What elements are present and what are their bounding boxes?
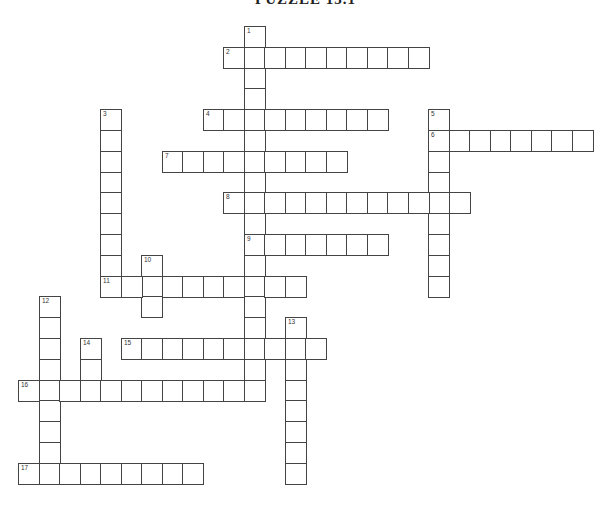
crossword-cell[interactable]: [490, 130, 512, 152]
crossword-cell[interactable]: [39, 317, 61, 339]
crossword-cell[interactable]: [162, 338, 184, 360]
crossword-cell[interactable]: [244, 317, 266, 339]
crossword-cell[interactable]: 1: [244, 26, 266, 48]
crossword-cell[interactable]: [100, 130, 122, 152]
crossword-cell[interactable]: [285, 338, 307, 360]
crossword-cell[interactable]: [39, 421, 61, 443]
crossword-cell[interactable]: [121, 380, 143, 402]
crossword-cell[interactable]: [531, 130, 553, 152]
crossword-cell[interactable]: [285, 359, 307, 381]
crossword-cell[interactable]: [367, 234, 389, 256]
crossword-cell[interactable]: [182, 338, 204, 360]
crossword-cell[interactable]: [572, 130, 594, 152]
crossword-cell[interactable]: 7: [162, 151, 184, 173]
crossword-cell[interactable]: [285, 109, 307, 131]
crossword-cell[interactable]: [428, 234, 450, 256]
crossword-cell[interactable]: [244, 338, 266, 360]
crossword-cell[interactable]: [285, 192, 307, 214]
crossword-cell[interactable]: [367, 47, 389, 69]
crossword-cell[interactable]: [59, 380, 81, 402]
crossword-cell[interactable]: [285, 380, 307, 402]
crossword-cell[interactable]: [244, 88, 266, 110]
crossword-cell[interactable]: [326, 192, 348, 214]
crossword-cell[interactable]: [408, 192, 430, 214]
crossword-cell[interactable]: [203, 276, 225, 298]
crossword-cell[interactable]: [100, 234, 122, 256]
crossword-cell[interactable]: [346, 234, 368, 256]
crossword-cell[interactable]: 12: [39, 296, 61, 318]
crossword-cell[interactable]: [244, 68, 266, 90]
crossword-cell[interactable]: [469, 130, 491, 152]
crossword-cell[interactable]: [39, 463, 61, 485]
crossword-cell[interactable]: [39, 359, 61, 381]
crossword-cell[interactable]: 14: [80, 338, 102, 360]
crossword-cell[interactable]: [346, 109, 368, 131]
crossword-cell[interactable]: [285, 276, 307, 298]
crossword-cell[interactable]: 13: [285, 317, 307, 339]
crossword-cell[interactable]: [244, 255, 266, 277]
crossword-cell[interactable]: [346, 47, 368, 69]
crossword-cell[interactable]: [39, 338, 61, 360]
crossword-cell[interactable]: [244, 296, 266, 318]
crossword-cell[interactable]: [551, 130, 573, 152]
crossword-cell[interactable]: [285, 400, 307, 422]
crossword-cell[interactable]: [223, 276, 245, 298]
crossword-cell[interactable]: [244, 359, 266, 381]
crossword-cell[interactable]: [305, 151, 327, 173]
crossword-cell[interactable]: [162, 276, 184, 298]
crossword-cell[interactable]: [326, 151, 348, 173]
crossword-cell[interactable]: [264, 47, 286, 69]
crossword-cell[interactable]: [203, 338, 225, 360]
crossword-cell[interactable]: [449, 130, 471, 152]
crossword-cell[interactable]: 11: [100, 276, 122, 298]
crossword-cell[interactable]: [428, 213, 450, 235]
crossword-cell[interactable]: [244, 380, 266, 402]
crossword-cell[interactable]: [141, 338, 163, 360]
crossword-cell[interactable]: [264, 276, 286, 298]
crossword-cell[interactable]: [244, 151, 266, 173]
crossword-cell[interactable]: [326, 234, 348, 256]
crossword-cell[interactable]: [121, 463, 143, 485]
crossword-cell[interactable]: [39, 442, 61, 464]
crossword-cell[interactable]: [244, 130, 266, 152]
crossword-cell[interactable]: [264, 338, 286, 360]
crossword-cell[interactable]: [285, 47, 307, 69]
crossword-cell[interactable]: [223, 380, 245, 402]
crossword-cell[interactable]: [203, 151, 225, 173]
crossword-cell[interactable]: [141, 296, 163, 318]
crossword-cell[interactable]: [428, 151, 450, 173]
crossword-cell[interactable]: [100, 255, 122, 277]
crossword-cell[interactable]: [141, 276, 163, 298]
crossword-cell[interactable]: [244, 192, 266, 214]
crossword-cell[interactable]: [141, 380, 163, 402]
crossword-cell[interactable]: [449, 192, 471, 214]
crossword-cell[interactable]: [305, 109, 327, 131]
crossword-cell[interactable]: 16: [18, 380, 40, 402]
crossword-cell[interactable]: 15: [121, 338, 143, 360]
crossword-cell[interactable]: [428, 172, 450, 194]
crossword-cell[interactable]: [162, 380, 184, 402]
crossword-cell[interactable]: [223, 151, 245, 173]
crossword-cell[interactable]: [285, 151, 307, 173]
crossword-cell[interactable]: [244, 47, 266, 69]
crossword-cell[interactable]: [203, 380, 225, 402]
crossword-cell[interactable]: [80, 463, 102, 485]
crossword-cell[interactable]: [244, 213, 266, 235]
crossword-cell[interactable]: 9: [244, 234, 266, 256]
crossword-cell[interactable]: [367, 109, 389, 131]
crossword-cell[interactable]: 6: [428, 130, 450, 152]
crossword-cell[interactable]: 17: [18, 463, 40, 485]
crossword-cell[interactable]: [367, 192, 389, 214]
crossword-cell[interactable]: [223, 338, 245, 360]
crossword-cell[interactable]: [346, 192, 368, 214]
crossword-cell[interactable]: [182, 276, 204, 298]
crossword-cell[interactable]: [305, 338, 327, 360]
crossword-cell[interactable]: [244, 172, 266, 194]
crossword-cell[interactable]: 5: [428, 109, 450, 131]
crossword-cell[interactable]: [285, 442, 307, 464]
crossword-cell[interactable]: [387, 192, 409, 214]
crossword-cell[interactable]: 4: [203, 109, 225, 131]
crossword-cell[interactable]: [100, 213, 122, 235]
crossword-cell[interactable]: [285, 234, 307, 256]
crossword-cell[interactable]: [59, 463, 81, 485]
